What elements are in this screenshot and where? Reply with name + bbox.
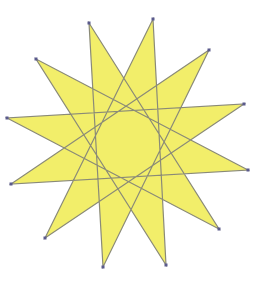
- vertex-point-3: [243, 103, 246, 106]
- vertex-point-8: [44, 237, 47, 240]
- vertex-point-5: [218, 228, 221, 231]
- vertex-point-7: [102, 266, 105, 269]
- vertex-point-2: [208, 49, 211, 52]
- vertex-point-11: [35, 58, 38, 61]
- vertex-point-1: [152, 18, 155, 21]
- star-diagram: [0, 0, 267, 282]
- vertex-point-9: [10, 183, 13, 186]
- vertex-point-4: [247, 169, 250, 172]
- vertex-point-6: [165, 264, 168, 267]
- vertex-point-0: [88, 22, 91, 25]
- vertex-point-10: [6, 117, 9, 120]
